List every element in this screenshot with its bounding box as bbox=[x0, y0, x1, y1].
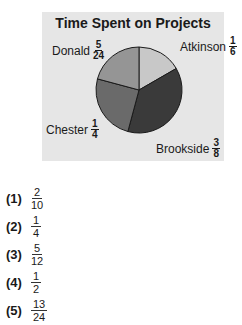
label-atkinson-fraction: 1 6 bbox=[229, 36, 237, 57]
answer-choice-1[interactable]: (1) 210 bbox=[6, 184, 47, 212]
pie-chart-panel: Time Spent on Projects Atkinson 1 6 Dona… bbox=[42, 12, 224, 161]
answer-choices: (1) 210 (2) 14 (3) 512 (4) 12 (5) 1324 bbox=[6, 184, 47, 324]
answer-choice-3[interactable]: (3) 512 bbox=[6, 240, 47, 268]
answer-choice-2[interactable]: (2) 14 bbox=[6, 212, 47, 240]
label-donald-fraction: 5 24 bbox=[93, 40, 104, 61]
label-chester-fraction: 1 4 bbox=[91, 119, 99, 140]
label-brookside-name: Brookside bbox=[156, 142, 209, 156]
label-chester: Chester 1 4 bbox=[46, 119, 99, 140]
label-donald-name: Donald bbox=[52, 44, 90, 58]
label-brookside: Brookside 3 8 bbox=[156, 138, 220, 159]
label-chester-name: Chester bbox=[46, 123, 88, 137]
label-brookside-fraction: 3 8 bbox=[212, 138, 220, 159]
label-atkinson-name: Atkinson bbox=[180, 40, 226, 54]
answer-choice-4[interactable]: (4) 12 bbox=[6, 268, 47, 296]
answer-choice-5[interactable]: (5) 1324 bbox=[6, 296, 47, 324]
label-atkinson: Atkinson 1 6 bbox=[180, 36, 237, 57]
label-donald: Donald 5 24 bbox=[52, 40, 104, 61]
